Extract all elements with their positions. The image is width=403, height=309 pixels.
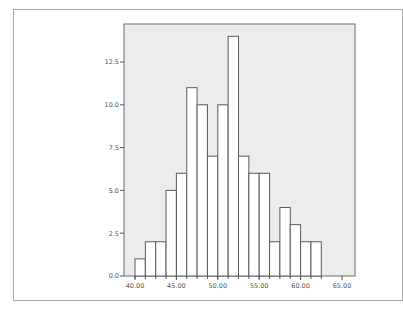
y-tick-label: 7.5 — [109, 144, 119, 152]
histogram-bar — [290, 225, 300, 276]
histogram-bar — [301, 242, 311, 276]
histogram-bar — [239, 156, 249, 276]
histogram-bar — [135, 259, 145, 276]
y-tick-label: 10.0 — [105, 101, 119, 109]
x-tick-label: 60.00 — [291, 282, 310, 290]
histogram-bar — [218, 105, 228, 276]
x-tick-label: 45.00 — [167, 282, 186, 290]
y-tick-label: 2.5 — [109, 230, 119, 238]
y-tick-label: 0.0 — [109, 272, 119, 280]
histogram-bar — [197, 105, 207, 276]
x-tick-label: 55.00 — [250, 282, 269, 290]
histogram-bar — [270, 242, 280, 276]
x-tick-label: 40.00 — [126, 282, 145, 290]
histogram-bar — [145, 242, 155, 276]
histogram-bar — [259, 173, 269, 276]
histogram-bar — [249, 173, 259, 276]
histogram-bar — [166, 190, 176, 276]
y-tick-label: 12.5 — [105, 58, 119, 66]
y-axis: 0.02.55.07.510.012.5 — [105, 58, 124, 280]
histogram-bar — [207, 156, 217, 276]
x-axis: 40.0045.0050.0055.0060.0065.00 — [126, 276, 352, 290]
x-tick-label: 50.00 — [208, 282, 227, 290]
histogram-bar — [311, 242, 321, 276]
histogram-bar — [280, 208, 290, 276]
histogram-bar — [187, 88, 197, 276]
histogram-bar — [228, 36, 238, 276]
histogram-bar — [156, 242, 166, 276]
x-tick-label: 65.00 — [333, 282, 352, 290]
histogram-bar — [176, 173, 186, 276]
y-tick-label: 5.0 — [109, 187, 119, 195]
